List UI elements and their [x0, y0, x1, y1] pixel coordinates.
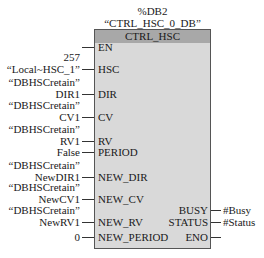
input-value[interactable]: CV1	[59, 112, 80, 123]
input-pin-hsc: HSC	[98, 64, 119, 75]
input-value[interactable]: “DBHSCretain”	[9, 160, 80, 171]
input-wire	[82, 141, 94, 142]
input-value[interactable]: False	[57, 147, 80, 158]
input-wire	[82, 47, 94, 48]
input-pin-new-dir: NEW_DIR	[98, 172, 148, 183]
output-pin-status: STATUS	[169, 217, 208, 228]
input-pin-en: EN	[98, 42, 113, 53]
instance-db-number: %DB2	[0, 6, 264, 17]
output-value[interactable]: #Busy	[223, 205, 251, 216]
input-value[interactable]: NewRV1	[39, 217, 80, 228]
output-pin-busy: BUSY	[179, 205, 208, 216]
input-pin-dir: DIR	[98, 89, 117, 100]
input-wire	[82, 237, 94, 238]
input-wire	[82, 69, 94, 70]
output-value[interactable]: #Status	[223, 217, 255, 228]
input-wire	[82, 177, 94, 178]
output-wire	[211, 210, 221, 211]
input-pin-period: PERIOD	[98, 147, 138, 158]
input-value[interactable]: “DBHSCretain”	[9, 77, 80, 88]
output-wire	[211, 222, 221, 223]
output-pin-eno: ENO	[185, 232, 208, 243]
input-value[interactable]: “DBHSCretain”	[9, 205, 80, 216]
input-wire	[82, 117, 94, 118]
input-value[interactable]: “DBHSCretain”	[9, 182, 80, 193]
input-wire	[82, 199, 94, 200]
input-value[interactable]: 0	[75, 232, 81, 243]
input-pin-new-period: NEW_PERIOD	[98, 232, 168, 243]
input-value[interactable]: 257	[64, 52, 81, 63]
input-pin-new-cv: NEW_CV	[98, 194, 144, 205]
input-wire	[82, 152, 94, 153]
output-wire	[211, 237, 221, 238]
input-value[interactable]: “Local~HSC_1”	[7, 64, 80, 75]
input-pin-new-rv: NEW_RV	[98, 217, 143, 228]
input-wire	[82, 222, 94, 223]
input-value[interactable]: “DBHSCretain”	[9, 100, 80, 111]
input-pin-cv: CV	[98, 112, 113, 123]
instance-db-name: “CTRL_HSC_0_DB”	[0, 18, 264, 29]
input-value[interactable]: “DBHSCretain”	[9, 124, 80, 135]
input-wire	[82, 94, 94, 95]
